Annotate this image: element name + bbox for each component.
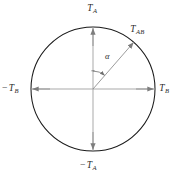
label-top-symbol: T: [87, 3, 92, 13]
label-bottom-symbol: T: [87, 160, 92, 170]
label-alpha-angle: α: [105, 52, 109, 61]
diagram-canvas: [0, 0, 179, 177]
resultant-vector-line: [93, 43, 134, 90]
label-top-subscript: A: [93, 7, 97, 14]
label-bottom-sign: −: [80, 160, 86, 170]
label-left-subscript: B: [15, 87, 19, 94]
label-t-b-positive: TB: [158, 84, 169, 94]
label-diag-symbol: T: [130, 24, 135, 34]
label-t-a-negative: −TA: [80, 161, 96, 171]
label-right-symbol: T: [159, 83, 164, 93]
label-t-ab: TAB: [129, 25, 144, 35]
label-t-b-negative: −TB: [2, 84, 18, 94]
label-left-symbol: T: [9, 83, 14, 93]
label-left-sign: −: [2, 83, 8, 93]
label-bottom-subscript: A: [93, 164, 97, 171]
label-diag-subscript: AB: [136, 28, 144, 35]
torque-circle-figure: TA −TA TB −TB TAB α: [0, 0, 179, 177]
label-t-a-positive: TA: [86, 4, 97, 14]
label-right-subscript: B: [165, 87, 169, 94]
angle-arc: [93, 71, 105, 75]
